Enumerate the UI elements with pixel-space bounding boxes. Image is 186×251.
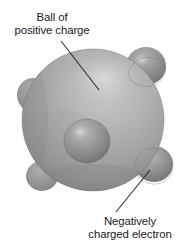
label-negatively-charged-electron: Negatively charged electron [74,215,186,241]
plum-pudding-model-figure: Ball of positive charge Negatively charg… [0,0,186,251]
label-electron-line2: charged electron [74,228,186,241]
label-positive-charge-line2: positive charge [0,24,104,37]
label-ball-of-positive-charge: Ball of positive charge [0,11,104,37]
label-electron-line1: Negatively [74,215,186,228]
electron-center [64,119,110,163]
label-positive-charge-line1: Ball of [0,11,104,24]
atom-diagram [0,0,186,251]
